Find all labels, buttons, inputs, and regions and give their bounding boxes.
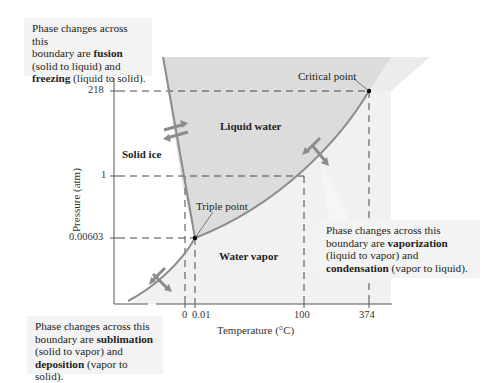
callout-line: (solid to vapor) and [35, 345, 157, 358]
x-tick-label-100: 100 [294, 309, 310, 320]
water-vapor-label: Water vapor [219, 250, 278, 262]
liquid-water-label: Liquid water [220, 120, 281, 132]
critical-point-label: Critical point [298, 70, 356, 82]
callout-line: Phase changes across this [32, 22, 146, 47]
callout-line: (solid to liquid) and [32, 60, 146, 73]
callout-line: boundary are vaporization [326, 237, 474, 250]
x-axis-title: Temperature (°C) [217, 324, 294, 336]
x-tick-label-0: 0 [182, 309, 187, 320]
y-tick-label-218: 218 [88, 84, 104, 95]
callout-line: boundary are sublimation [35, 333, 157, 346]
sublimation-callout: Phase changes across this boundary are s… [27, 316, 163, 374]
y-tick-label-00603: 0.00603 [69, 231, 103, 242]
callout-line: condensation (vapor to liquid). [326, 262, 474, 275]
callout-line: (liquid to vapor) and [326, 249, 474, 262]
y-tick-label-1: 1 [101, 169, 106, 180]
callout-line: Phase changes across this [326, 224, 474, 237]
vaporization-callout: Phase changes across this boundary are v… [318, 220, 480, 278]
callout-line: deposition (vapor to solid). [35, 358, 157, 383]
x-tick-label-374: 374 [359, 309, 375, 320]
triple-point-label: Triple point [196, 200, 248, 212]
y-axis-title: Pressure (atm) [70, 168, 82, 232]
callout-line: Phase changes across this [35, 320, 157, 333]
callout-line: boundary are fusion [32, 47, 146, 60]
fusion-callout: Phase changes across this boundary are f… [24, 18, 152, 76]
solid-ice-label: Solid ice [122, 148, 161, 160]
x-tick-label-001: 0.01 [192, 309, 210, 320]
